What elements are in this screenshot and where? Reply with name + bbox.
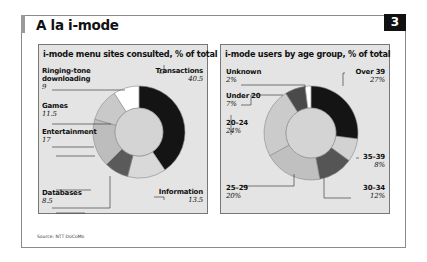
label-information: Information13.5 bbox=[159, 188, 203, 204]
label-databases: Databases8.5 bbox=[42, 189, 82, 205]
page-title: A la i-mode bbox=[36, 17, 119, 33]
label-20-24: 20–2424% bbox=[226, 119, 248, 135]
figure-number-badge: 3 bbox=[384, 14, 406, 31]
label-games: Games11.5 bbox=[42, 102, 68, 118]
label-transactions: Transactions40.5 bbox=[155, 67, 203, 83]
label-ringing-tone: Ringing-tonedownloading9 bbox=[42, 67, 91, 91]
label-30-34: 30–3412% bbox=[363, 184, 385, 200]
label-under-20: Under 207% bbox=[226, 92, 260, 108]
label-entertainment: Entertainment17 bbox=[42, 128, 97, 144]
label-unknown: Unknown2% bbox=[226, 68, 261, 84]
label-35-39: 35–398% bbox=[363, 153, 385, 169]
label-25-29: 25–2920% bbox=[226, 184, 248, 200]
label-over-39: Over 3927% bbox=[356, 68, 386, 84]
panel-age-groups: i-mode users by age group, % of total Un… bbox=[220, 44, 390, 214]
source-note: Source: NTT DoCoMo bbox=[37, 234, 84, 239]
title-accent-bar bbox=[21, 15, 25, 33]
panel-menu-sites: i-mode menu sites consulted, % of total … bbox=[38, 44, 208, 214]
